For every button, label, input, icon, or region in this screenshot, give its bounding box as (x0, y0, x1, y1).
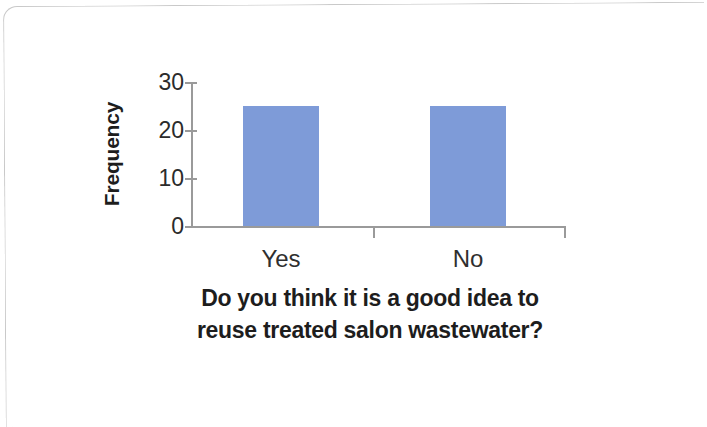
y-tick-label-20: 20 (138, 119, 184, 142)
bar-yes (243, 106, 319, 226)
y-tick-label-0: 0 (138, 215, 184, 238)
y-tick-mark-30 (185, 82, 197, 84)
bar-no (430, 106, 506, 226)
y-axis-title: Frequency (99, 84, 125, 224)
x-axis-title: Do you think it is a good idea to reuse … (150, 282, 590, 346)
y-tick-label-10: 10 (138, 167, 184, 190)
x-axis-line (191, 226, 566, 228)
x-axis-title-line-1: Do you think it is a good idea to (150, 282, 590, 314)
y-tick-label-30: 30 (138, 71, 184, 94)
y-tick-mark-0 (185, 226, 197, 228)
y-tick-mark-20 (185, 130, 197, 132)
x-tick-mark-end (564, 227, 566, 238)
y-axis-line (191, 82, 193, 227)
x-tick-mark-divider (373, 227, 375, 238)
y-tick-mark-10 (185, 178, 197, 180)
x-category-label-no: No (408, 245, 528, 273)
x-category-label-yes: Yes (221, 245, 341, 273)
x-axis-title-line-2: reuse treated salon wastewater? (150, 314, 590, 346)
